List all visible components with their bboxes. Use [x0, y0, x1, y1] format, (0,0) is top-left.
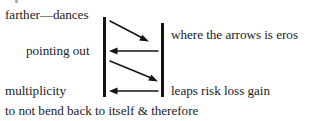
arrow-4-horizontal-left-icon [109, 88, 158, 95]
handwritten-note-diagram-page: farther—dances pointing out multiplicity… [0, 0, 309, 121]
arrow-diagram-svg [0, 0, 309, 121]
arrow-1-diagonal-down-right-icon [110, 21, 149, 42]
arrow-2-horizontal-left-icon [109, 48, 158, 55]
arrow-3-diagonal-down-right-icon [110, 61, 158, 82]
